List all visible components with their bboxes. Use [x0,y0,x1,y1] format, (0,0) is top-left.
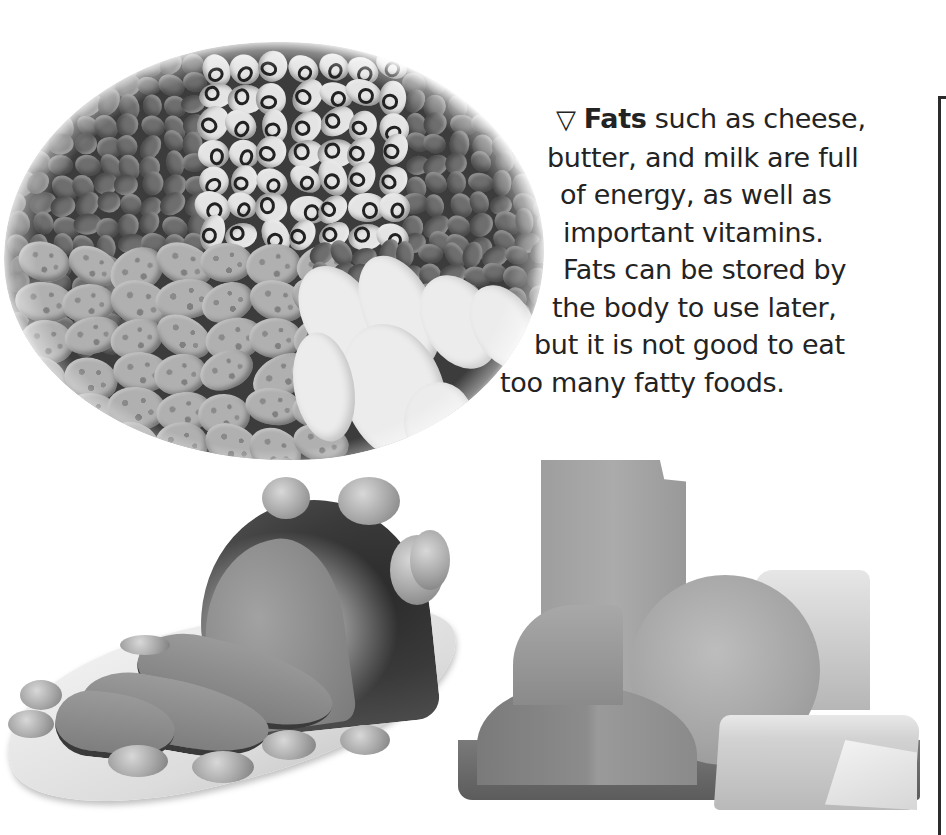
bean [251,131,292,173]
cheese-photo [455,450,921,810]
onion [192,751,254,783]
beans-photo [4,42,544,460]
bean [29,113,50,137]
caption-line-1: ▽Fats such as cheese, [496,100,916,139]
bean [254,47,291,86]
roast-meat-photo [0,455,470,815]
bean [113,173,138,195]
caption-line-7: but it is not good to eat [496,326,916,364]
bean [155,187,189,220]
onion [262,730,316,760]
cheese-wedge [513,605,623,705]
bean [510,71,535,92]
caption-line-5: Fats can be stored by [496,251,916,289]
caption-line-6: the body to use later, [496,289,916,327]
onion [20,680,62,710]
bean [48,154,74,175]
onion [262,477,310,519]
onion [120,635,170,655]
onion [338,477,400,525]
bean [47,132,74,156]
caption-line-2: butter, and milk are full [496,139,916,177]
onion [340,725,390,755]
onion [8,710,54,738]
triangle-marker-icon: ▽ [556,104,576,134]
caption-line-3: of energy, as well as [496,176,916,214]
caption-line-4: important vitamins. [496,214,916,252]
caption-text: such as cheese, [647,103,866,134]
margin-rule [938,96,941,835]
bean [472,50,496,78]
onion [108,745,168,777]
margin-rule-tick [938,96,946,99]
bean [447,171,467,195]
document-page: ▽Fats such as cheese, butter, and milk a… [0,0,946,835]
fats-caption: ▽Fats such as cheese, butter, and milk a… [496,100,916,401]
caption-bold-term: Fats [584,103,647,134]
bean [29,47,56,79]
bean [97,191,121,213]
bean [75,133,97,155]
bean [404,382,474,460]
onion [410,530,450,590]
caption-line-8: too many fatty foods. [496,364,916,402]
